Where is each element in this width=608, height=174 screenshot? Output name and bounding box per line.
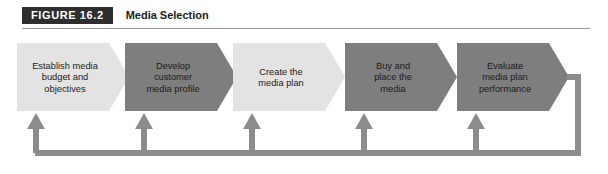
arrow-head [135,113,153,129]
feedback-arrow-create-the-media-plan [243,113,261,153]
figure-container: FIGURE 16.2 Media Selection Establish me… [0,0,608,174]
media-selection-process-diagram: Establish mediabudget andobjectivesDevel… [0,0,608,174]
feedback-arrow-evaluate-media-plan-performance [467,113,485,153]
process-step-buy-and-place-the-media: Buy andplace themedia [345,43,457,111]
process-step-create-the-media-plan: Create themedia plan [233,43,345,111]
step-label: Create themedia plan [258,67,303,89]
arrow-head [27,113,45,129]
feedback-arrow-buy-and-place-the-media [355,113,373,153]
arrow-head [243,113,261,129]
arrow-head [467,113,485,129]
arrow-head [355,113,373,129]
feedback-arrow-develop-customer-media-profile [135,113,153,153]
chevron-steps-group: Establish mediabudget andobjectivesDevel… [17,43,569,111]
process-step-develop-customer-media-profile: Developcustomermedia profile [125,43,237,111]
process-step-evaluate-media-plan-performance: Evaluatemedia planperformance [457,43,569,111]
process-step-establish-media-budget-and-objectives: Establish mediabudget andobjectives [17,43,129,111]
feedback-arrow-establish-media-budget-and-objectives [27,113,45,153]
chevron-shape [233,43,345,111]
